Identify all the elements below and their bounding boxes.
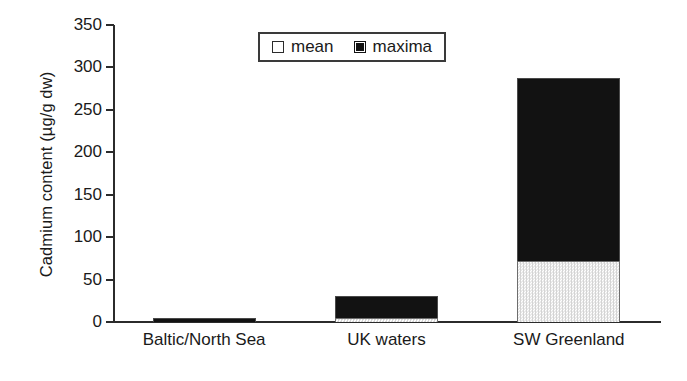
stacked-bar[interactable] (153, 318, 256, 322)
y-axis-title: Cadmium content (µg/g dw) (37, 25, 56, 325)
x-axis-labels: Baltic/North SeaUK watersSW Greenland (113, 330, 660, 360)
bar-segment-mean (517, 261, 620, 322)
stacked-bar[interactable] (517, 78, 620, 322)
chart-legend: mean maxima (258, 32, 446, 62)
bar-slot (295, 25, 477, 322)
y-tick-label: 100 (74, 227, 102, 247)
legend-item-mean: mean (272, 38, 334, 55)
y-tick-label: 300 (74, 57, 102, 77)
y-tick-label: 0 (93, 312, 102, 332)
white-square-icon (272, 41, 284, 53)
x-axis-label-3: SW Greenland (478, 330, 660, 350)
y-tick-label: 50 (83, 270, 102, 290)
bar-group (113, 25, 660, 322)
y-tick-label: 250 (74, 100, 102, 120)
legend-item-maxima: maxima (354, 38, 433, 55)
stacked-bar[interactable] (335, 296, 438, 322)
plot-area: 350300250200150100500 (113, 25, 660, 322)
bar-segment-maxima (153, 318, 256, 322)
bar-segment-mean (335, 318, 438, 322)
legend-label-mean: mean (291, 38, 334, 55)
bar-segment-maxima (335, 296, 438, 318)
y-tick-label: 350 (74, 15, 102, 35)
bar-segment-maxima (517, 78, 620, 261)
bar-slot (478, 25, 660, 322)
y-tick-label: 150 (74, 185, 102, 205)
x-axis-label-2: UK waters (295, 330, 477, 350)
black-square-icon (354, 41, 366, 53)
cadmium-content-bar-chart: Cadmium content (µg/g dw) 35030025020015… (0, 0, 687, 381)
legend-label-maxima: maxima (373, 38, 433, 55)
y-tick-label: 200 (74, 142, 102, 162)
bar-slot (113, 25, 295, 322)
x-axis-label-1: Baltic/North Sea (113, 330, 295, 350)
